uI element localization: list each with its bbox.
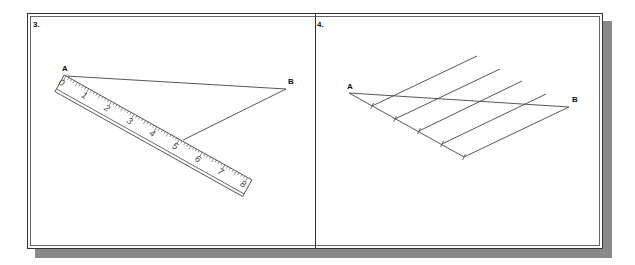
construction-ray <box>349 93 464 157</box>
ruler-bevel-edge <box>56 89 244 194</box>
point-b-label: B <box>288 77 294 86</box>
point-a-label: A <box>347 82 353 91</box>
parallel-line-3 <box>419 81 522 131</box>
parallel-line-2 <box>395 69 500 119</box>
division-tick-5 <box>463 154 466 160</box>
panel-4-figure: AB <box>347 56 578 160</box>
geometry-drawing: AB012345678 AB <box>0 0 635 265</box>
parallel-line-4 <box>442 94 546 144</box>
segment-ab <box>66 76 286 89</box>
ruler: 012345678 <box>55 75 252 196</box>
point-b-label: B <box>572 95 578 104</box>
point-a-label: A <box>62 64 68 73</box>
parallel-line-1 <box>372 56 477 106</box>
panel-3-figure: AB012345678 <box>55 64 294 196</box>
parallel-line-5 <box>464 107 569 157</box>
construction-line <box>183 89 286 140</box>
segment-ab <box>349 93 569 107</box>
